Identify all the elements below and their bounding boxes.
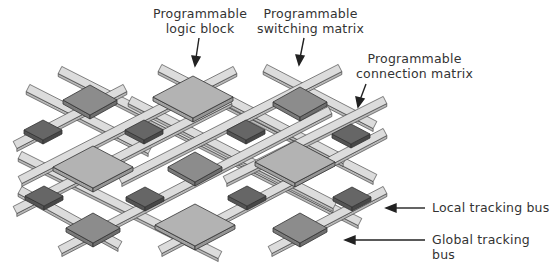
label-logic-block: Programmable logic block [145, 6, 255, 36]
label-line: Programmable [352, 51, 477, 66]
label-global-tracking-bus: Global tracking bus [432, 232, 551, 262]
label-line: logic block [145, 21, 255, 36]
arrow-head-icon [192, 56, 200, 66]
label-line: switching matrix [253, 21, 368, 36]
arrow-head-icon [296, 55, 304, 65]
fpga-grid-diagram [0, 0, 551, 264]
label-line: connection matrix [352, 66, 477, 81]
arrow-head-icon [345, 236, 355, 244]
label-switching-matrix: Programmable switching matrix [253, 6, 368, 36]
label-local-tracking-bus: Local tracking bus [432, 200, 551, 215]
label-line: Programmable [253, 6, 368, 21]
arrow-head-icon [356, 97, 364, 107]
components [24, 76, 371, 250]
arrow-head-icon [386, 204, 396, 212]
label-connection-matrix: Programmable connection matrix [352, 51, 477, 81]
arrow-logic-block [196, 38, 199, 58]
label-line: Programmable [145, 6, 255, 21]
connection-matrix [228, 186, 266, 210]
